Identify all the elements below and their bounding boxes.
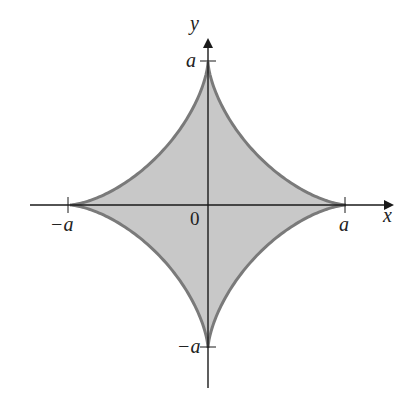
origin-label: 0 [190,208,200,229]
y-axis-label: y [188,12,199,35]
astroid-diagram: y x 0 a −a a −a [0,0,417,407]
tick-label-x-pos: a [339,213,349,235]
tick-label-x-neg: −a [50,213,74,235]
tick-label-y-pos: a [186,49,196,71]
x-axis-label: x [382,204,392,226]
tick-label-y-neg: −a [177,335,201,357]
